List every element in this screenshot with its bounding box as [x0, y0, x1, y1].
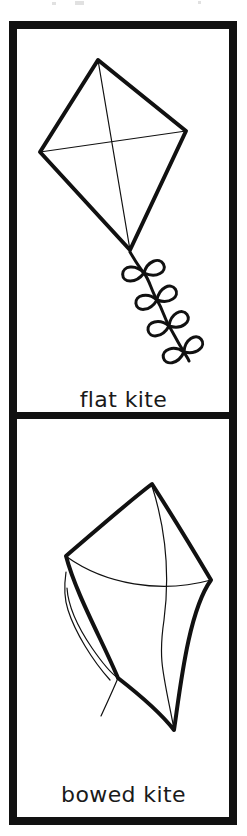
frame-bottom-bar [9, 817, 237, 825]
bow-right-loop [166, 309, 191, 330]
flat-kite-tail-bow [146, 309, 191, 338]
diagram-frame [9, 21, 237, 825]
bowed-kite-outline [66, 484, 211, 730]
bowed-kite-label: bowed kite [0, 782, 247, 807]
frame-top-bar [9, 21, 237, 29]
bowed-kite-tail-line [101, 678, 118, 716]
flat-kite-outline [40, 60, 186, 250]
flat-kite-label: flat kite [0, 387, 247, 412]
bow-right-loop [142, 259, 166, 278]
bow-left-loop [121, 264, 145, 283]
panel-divider [9, 412, 237, 419]
frame-left-bar [9, 21, 17, 825]
bowed-kite-horizontal-spar [67, 557, 211, 586]
bow-right-loop [154, 284, 179, 304]
flat-kite-tail-bow [121, 259, 166, 283]
flat-kite-tail-bow [161, 334, 205, 365]
kite-diagram-canvas [0, 0, 247, 836]
frame-right-bar [229, 21, 237, 825]
kite-diagram-page: flat kite bowed kite [0, 0, 247, 836]
bowed-kite-drawing [65, 484, 211, 730]
bowed-kite-vertical-spar [152, 486, 174, 729]
bow-right-loop [180, 334, 205, 356]
flat-kite-tail-bow [134, 284, 179, 312]
flat-kite-drawing [40, 60, 205, 366]
